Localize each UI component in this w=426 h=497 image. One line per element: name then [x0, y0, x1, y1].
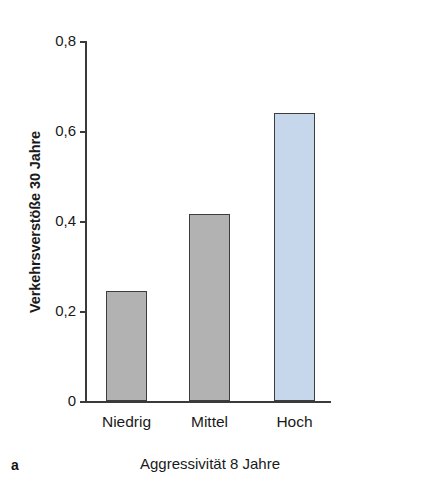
- bar-hoch: [274, 113, 315, 401]
- y-tick-mark: [80, 401, 86, 403]
- y-tick-label: 0,8: [55, 32, 76, 49]
- y-tick-mark: [80, 311, 86, 313]
- y-tick-label: 0,6: [55, 122, 76, 139]
- y-tick-mark: [80, 41, 86, 43]
- bar-niedrig: [106, 291, 147, 401]
- x-axis-title: Aggressivität 8 Jahre: [85, 455, 335, 472]
- x-axis-line: [85, 401, 331, 403]
- panel-letter: a: [11, 457, 19, 473]
- category-label-niedrig: Niedrig: [84, 413, 169, 431]
- y-tick-mark: [80, 131, 86, 133]
- category-label-mittel: Mittel: [167, 413, 252, 431]
- y-tick-label: 0,4: [55, 212, 76, 229]
- bar-chart-figure: Verkehrsverstöße 30 Jahre 00,20,40,60,8 …: [0, 0, 426, 497]
- y-axis-title: Verkehrsverstöße 30 Jahre: [27, 97, 43, 347]
- y-tick-label: 0: [68, 392, 76, 409]
- category-label-hoch: Hoch: [252, 413, 337, 431]
- bar-mittel: [189, 214, 230, 401]
- y-tick-mark: [80, 221, 86, 223]
- y-tick-label: 0,2: [55, 302, 76, 319]
- plot-area: 00,20,40,60,8 NiedrigMittelHoch: [85, 41, 331, 401]
